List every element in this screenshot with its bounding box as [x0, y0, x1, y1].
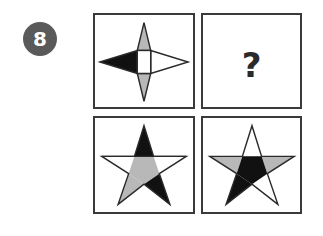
puzzle-cell-bottom-left	[93, 116, 195, 214]
question-mark: ?	[203, 45, 300, 85]
puzzle-cell-bottom-right	[201, 116, 302, 214]
four-point-star-icon	[95, 15, 193, 107]
puzzle-cell-top-right: ?	[201, 13, 302, 109]
five-point-star-icon	[95, 118, 193, 212]
puzzle-cell-top-left	[93, 13, 195, 109]
question-number-badge: 8	[23, 22, 57, 56]
five-point-star-icon	[203, 118, 300, 212]
